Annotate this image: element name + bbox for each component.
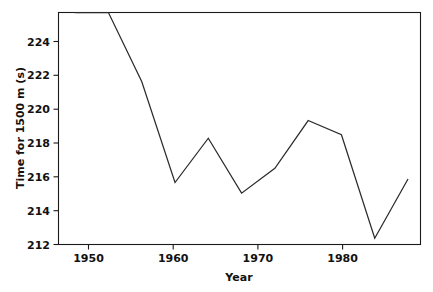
data-series-line [75,13,408,239]
x-tick-label-1980: 1980 [327,252,358,265]
x-axis-title: Year [224,271,253,284]
y-tick-label-212: 212 [27,239,50,252]
y-tick-label-214: 214 [27,205,50,218]
y-tick-label-216: 216 [27,171,50,184]
x-tick-label-1970: 1970 [243,252,274,265]
y-tick-label-224: 224 [27,36,50,49]
y-axis-title: Time for 1500 m (s) [14,67,27,189]
y-axis-tick-labels: 212 214 216 218 220 222 224 [27,36,50,252]
y-tick-label-220: 220 [27,103,50,116]
plot-frame [59,13,421,245]
chart-canvas: 212 214 216 218 220 222 224 1950 1960 19… [0,0,433,292]
y-tick-label-222: 222 [27,69,50,82]
y-tick-label-218: 218 [27,137,50,150]
y-axis-ticks [54,42,59,245]
x-axis-ticks [89,245,343,250]
x-tick-label-1950: 1950 [73,252,104,265]
x-tick-label-1960: 1960 [158,252,189,265]
x-axis-tick-labels: 1950 1960 1970 1980 [73,252,358,265]
line-chart-figure: 212 214 216 218 220 222 224 1950 1960 19… [0,0,433,292]
